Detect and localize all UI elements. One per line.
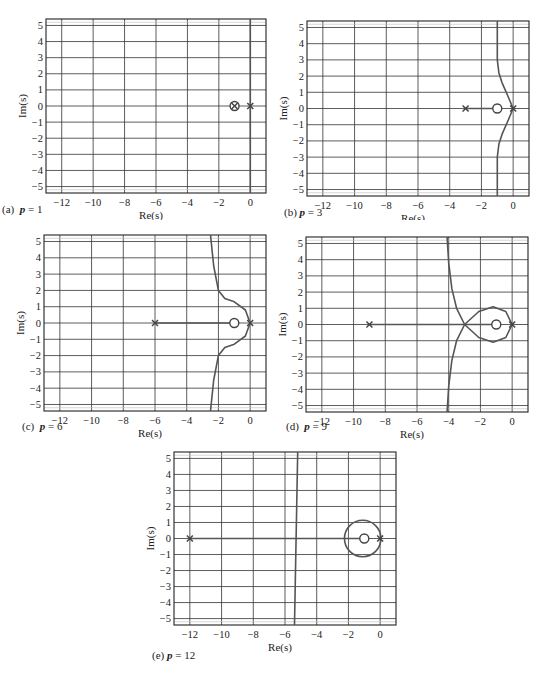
svg-text:−6: −6 [412, 200, 423, 211]
svg-text:−8: −8 [380, 416, 391, 427]
svg-text:−2: −2 [213, 415, 224, 426]
svg-text:−6: −6 [149, 415, 160, 426]
y-tick-labels: 543210−1−2−3−4−5 [292, 238, 304, 411]
svg-text:−5: −5 [160, 613, 171, 624]
svg-text:−10: −10 [346, 200, 362, 211]
svg-text:−4: −4 [160, 597, 172, 608]
x-axis-label: Re(s) [138, 427, 162, 440]
svg-text:−2: −2 [30, 350, 41, 361]
y-tick-labels: 543210−1−2−3−4−5 [30, 236, 42, 410]
panel-caption-a: (a) p = 1 [2, 203, 42, 215]
x-tick-labels: −12−10−8−6−4−20 [314, 416, 515, 427]
svg-text:0: 0 [378, 629, 383, 640]
x-tick-labels: −12−10−8−6−4−20 [182, 629, 383, 640]
svg-text:−2: −2 [160, 565, 171, 576]
root-locus-curves [369, 237, 512, 412]
x-tick-labels: −12−10−8−6−4−20 [54, 197, 253, 208]
svg-text:−1: −1 [292, 335, 303, 346]
zero-marker-icon [360, 534, 369, 543]
x-tick-labels: −12−10−8−6−4−20 [52, 415, 253, 426]
svg-text:−4: −4 [181, 415, 193, 426]
root-locus-curves [190, 452, 381, 625]
y-axis-label: Im(s) [14, 311, 27, 335]
y-axis-label: Im(s) [277, 96, 290, 120]
svg-text:−4: −4 [292, 384, 304, 395]
svg-text:−2: −2 [213, 197, 224, 208]
x-axis-label: Re(s) [401, 212, 425, 220]
svg-text:−5: −5 [293, 184, 304, 195]
panel-caption-c: (c) p = 6 [22, 420, 62, 432]
svg-text:−8: −8 [119, 197, 130, 208]
panel-caption-e: (e) p = 12 [152, 649, 195, 661]
svg-text:0: 0 [510, 416, 515, 427]
svg-text:5: 5 [166, 453, 171, 464]
svg-text:−1: −1 [30, 334, 41, 345]
svg-text:−12: −12 [182, 629, 198, 640]
svg-text:−10: −10 [83, 415, 99, 426]
root-locus-plot-d: −12−10−8−6−4−20543210−1−2−3−4−5Re(s)Im(s… [274, 220, 548, 440]
y-axis-label: Im(s) [16, 94, 29, 118]
plot-panel-c: −12−10−8−6−4−20543210−1−2−3−4−5Re(s)Im(s… [0, 220, 274, 440]
svg-text:−3: −3 [30, 366, 41, 377]
plot-panel-d: −12−10−8−6−4−20543210−1−2−3−4−5Re(s)Im(s… [274, 220, 548, 440]
svg-text:−10: −10 [213, 629, 229, 640]
y-tick-labels: 543210−1−2−3−4−5 [293, 22, 305, 195]
svg-text:2: 2 [166, 501, 171, 512]
svg-text:−4: −4 [444, 200, 456, 211]
y-axis-label: Im(s) [144, 526, 157, 550]
svg-text:2: 2 [36, 285, 41, 296]
svg-text:4: 4 [36, 252, 42, 263]
svg-text:−5: −5 [30, 399, 41, 410]
svg-text:5: 5 [36, 236, 41, 247]
svg-text:5: 5 [298, 238, 303, 249]
svg-text:1: 1 [166, 517, 171, 528]
svg-text:−8: −8 [118, 415, 129, 426]
svg-text:3: 3 [299, 54, 304, 65]
svg-text:−4: −4 [182, 197, 194, 208]
plot-panel-b: −12−10−8−6−4−20543210−1−2−3−4−5Re(s)Im(s… [274, 0, 548, 220]
svg-text:−10: −10 [85, 197, 101, 208]
svg-text:0: 0 [299, 103, 304, 114]
svg-text:5: 5 [299, 22, 304, 33]
svg-text:1: 1 [298, 303, 303, 314]
zero-marker-icon [492, 320, 501, 329]
svg-text:4: 4 [166, 469, 172, 480]
svg-text:−2: −2 [343, 629, 354, 640]
svg-text:2: 2 [299, 71, 304, 82]
svg-text:−2: −2 [292, 351, 303, 362]
plot-panel-a: −12−10−8−6−4−20543210−1−2−3−4−5Re(s)Im(s… [0, 0, 274, 220]
root-locus-plot-a: −12−10−8−6−4−20543210−1−2−3−4−5Re(s)Im(s… [0, 0, 274, 220]
svg-text:3: 3 [298, 270, 303, 281]
svg-text:−6: −6 [150, 197, 161, 208]
svg-text:−2: −2 [32, 133, 43, 144]
svg-text:−4: −4 [293, 168, 305, 179]
y-tick-labels: 543210−1−2−3−4−5 [32, 20, 44, 192]
svg-text:1: 1 [299, 87, 304, 98]
svg-text:3: 3 [38, 52, 43, 63]
svg-text:−4: −4 [30, 383, 42, 394]
svg-text:5: 5 [38, 20, 43, 31]
svg-text:0: 0 [248, 415, 253, 426]
svg-text:1: 1 [38, 84, 43, 95]
zero-marker-icon [493, 104, 502, 113]
svg-text:−5: −5 [292, 400, 303, 411]
svg-text:−4: −4 [311, 629, 323, 640]
svg-text:0: 0 [248, 197, 253, 208]
svg-text:1: 1 [36, 301, 41, 312]
svg-text:−12: −12 [54, 197, 70, 208]
y-tick-labels: 543210−1−2−3−4−5 [160, 453, 172, 624]
svg-text:−4: −4 [443, 416, 455, 427]
plot-panel-e: −12−10−8−6−4−20543210−1−2−3−4−5Re(s)Im(s… [140, 440, 414, 677]
svg-text:−1: −1 [32, 117, 43, 128]
svg-text:0: 0 [298, 319, 303, 330]
svg-text:−5: −5 [32, 181, 43, 192]
svg-text:3: 3 [36, 269, 41, 280]
svg-text:4: 4 [38, 36, 44, 47]
x-axis-label: Re(s) [268, 641, 292, 654]
svg-text:−3: −3 [32, 149, 43, 160]
svg-text:−2: −2 [293, 135, 304, 146]
svg-text:−3: −3 [160, 581, 171, 592]
svg-text:−2: −2 [476, 200, 487, 211]
svg-text:−10: −10 [345, 416, 361, 427]
svg-text:−1: −1 [160, 549, 171, 560]
